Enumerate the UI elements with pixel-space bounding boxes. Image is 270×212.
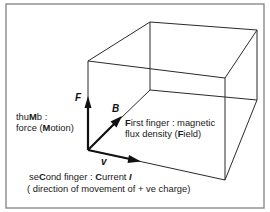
svg-text:seCond finger : Current I: seCond finger : Current I (29, 171, 132, 182)
force-symbol: F (75, 92, 82, 103)
thumb-label: thuMb : force (Motion) (16, 111, 74, 133)
velocity-symbol: v (101, 156, 108, 167)
force-vector-arrow (85, 96, 92, 150)
svg-text:force (Motion): force (Motion) (16, 122, 74, 133)
svg-text:thuMb :: thuMb : (16, 111, 47, 122)
left-hand-rule-diagram: F B v thuMb : force (Motion) First finge… (0, 0, 270, 212)
velocity-vector-arrow (88, 150, 141, 163)
second-finger-label: seCond finger : Current I ( direction of… (27, 171, 190, 194)
flux-density-symbol: B (112, 103, 119, 114)
svg-text:flux density (Field): flux density (Field) (125, 128, 201, 139)
svg-text:( direction of movement of +: ( direction of movement of + ve charge) (27, 183, 190, 194)
first-finger-label: First finger : magnetic flux density (Fi… (125, 117, 215, 139)
flux-density-vector-arrow (88, 116, 122, 150)
svg-text:First finger : magnetic: First finger : magnetic (125, 117, 215, 128)
diagram-canvas: F B v thuMb : force (Motion) First finge… (0, 0, 270, 212)
